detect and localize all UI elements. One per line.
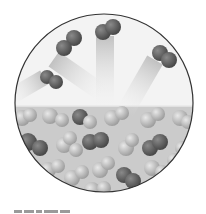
evaporation-diagram xyxy=(0,0,206,214)
figure-caption-cropped xyxy=(14,210,84,214)
